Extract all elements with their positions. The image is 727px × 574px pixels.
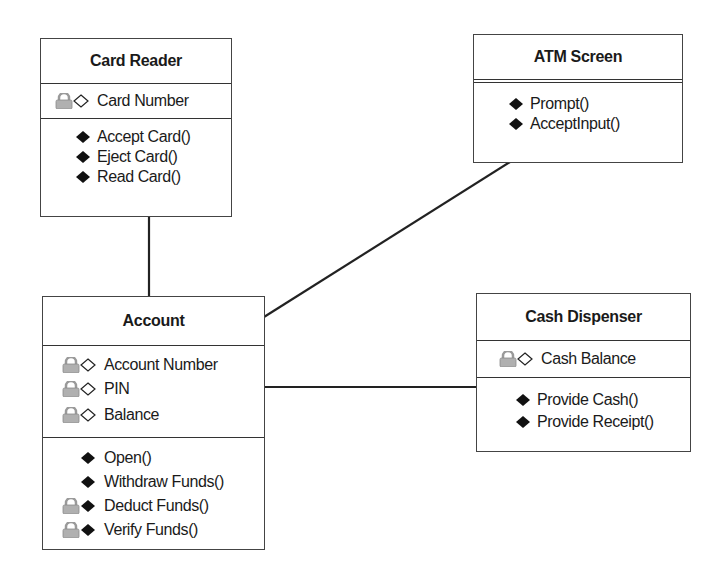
operation-row: Accept Card() <box>75 127 231 147</box>
operations-section: Accept Card() Eject Card() Read Card() <box>41 119 231 191</box>
filled-diamond-icon <box>75 170 91 184</box>
operation-row: Prompt() <box>508 94 682 114</box>
attribute-row: Balance <box>62 402 264 428</box>
attribute-label: Account Number <box>104 356 218 374</box>
operations-section: Provide Cash() Provide Receipt() <box>477 378 690 437</box>
operation-row: Read Card() <box>75 167 231 187</box>
hollow-diamond-icon <box>517 352 533 366</box>
hollow-diamond-icon <box>80 408 96 422</box>
association-account-atmscreen <box>264 162 510 317</box>
attributes-section: Cash Balance <box>477 341 690 378</box>
operation-row: Deduct Funds() <box>62 494 264 518</box>
operation-row: Eject Card() <box>75 147 231 167</box>
operation-label: Provide Cash() <box>537 391 638 409</box>
class-atm-screen[interactable]: ATM Screen Prompt() AcceptInput() <box>473 34 683 163</box>
filled-diamond-icon <box>80 523 96 537</box>
operations-section: Open() Withdraw Funds() Deduct Funds() V… <box>43 438 264 546</box>
operation-row: Provide Cash() <box>515 389 690 411</box>
class-name: ATM Screen <box>474 35 682 83</box>
operation-label: Open() <box>104 449 151 467</box>
operations-section: Prompt() AcceptInput() <box>474 83 682 138</box>
operation-label: Provide Receipt() <box>537 413 654 431</box>
lock-icon <box>62 357 80 373</box>
class-name: Cash Dispenser <box>477 294 690 341</box>
operation-label: Read Card() <box>97 168 181 186</box>
operation-label: Prompt() <box>530 95 589 113</box>
lock-icon <box>62 522 80 538</box>
operation-label: Deduct Funds() <box>104 497 209 515</box>
operation-row: Provide Receipt() <box>515 411 690 433</box>
attribute-label: PIN <box>104 380 129 398</box>
class-name: Account <box>43 297 264 346</box>
operation-row: Verify Funds() <box>62 518 264 542</box>
lock-icon <box>62 381 80 397</box>
operation-row: Withdraw Funds() <box>62 470 264 494</box>
filled-diamond-icon <box>80 475 96 489</box>
attribute-label: Card Number <box>97 92 189 110</box>
class-cash-dispenser[interactable]: Cash Dispenser Cash Balance Provide Cash… <box>476 293 691 452</box>
operation-label: Withdraw Funds() <box>104 473 224 491</box>
hollow-diamond-icon <box>80 358 96 372</box>
attribute-row: PIN <box>62 376 264 402</box>
filled-diamond-icon <box>515 415 531 429</box>
attribute-label: Balance <box>104 406 159 424</box>
attribute-row: Cash Balance <box>499 349 690 369</box>
filled-diamond-icon <box>75 130 91 144</box>
class-name: Card Reader <box>41 39 231 84</box>
hollow-diamond-icon <box>73 94 89 108</box>
filled-diamond-icon <box>508 97 524 111</box>
operation-label: Eject Card() <box>97 148 178 166</box>
class-card-reader[interactable]: Card Reader Card Number Accept Card() Ej… <box>40 38 232 217</box>
hollow-diamond-icon <box>80 382 96 396</box>
operation-label: Accept Card() <box>97 128 191 146</box>
filled-diamond-icon <box>75 150 91 164</box>
lock-icon <box>55 93 73 109</box>
operation-row: Open() <box>62 446 264 470</box>
filled-diamond-icon <box>515 393 531 407</box>
attributes-section: Account Number PIN Balance <box>43 346 264 438</box>
attribute-label: Cash Balance <box>541 350 636 368</box>
operation-label: AcceptInput() <box>530 115 620 133</box>
attribute-row: Account Number <box>62 354 264 376</box>
filled-diamond-icon <box>80 499 96 513</box>
filled-diamond-icon <box>508 117 524 131</box>
filled-diamond-icon <box>80 451 96 465</box>
operation-label: Verify Funds() <box>104 521 198 539</box>
class-account[interactable]: Account Account Number PIN Balance <box>42 296 265 550</box>
lock-icon <box>62 498 80 514</box>
lock-icon <box>62 407 80 423</box>
lock-icon <box>499 351 517 367</box>
attribute-row: Card Number <box>55 91 231 111</box>
attributes-section: Card Number <box>41 84 231 119</box>
operation-row: AcceptInput() <box>508 114 682 134</box>
